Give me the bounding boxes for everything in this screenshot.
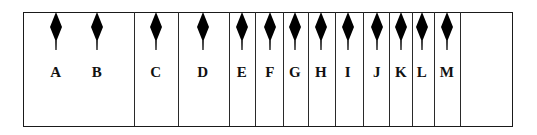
diamond-pin-icon xyxy=(288,12,302,54)
divider-line xyxy=(255,12,256,126)
diamond-pin-icon xyxy=(49,12,63,54)
marker-label: M xyxy=(435,64,459,81)
strip-diagram: ABCDEFGHIJKLM xyxy=(0,0,537,135)
marker-label: I xyxy=(336,64,360,81)
diamond-pin-icon xyxy=(314,12,328,54)
marker-label: L xyxy=(410,64,434,81)
diamond-pin-icon xyxy=(370,12,384,54)
diamond-pin-icon xyxy=(196,12,210,54)
marker-label: E xyxy=(230,64,254,81)
divider-line xyxy=(363,12,364,126)
diamond-pin-icon xyxy=(394,12,408,54)
diamond-pin-icon xyxy=(440,12,454,54)
marker-label: A xyxy=(44,64,68,81)
diamond-pin-icon xyxy=(149,12,163,54)
marker-label: C xyxy=(144,64,168,81)
diamond-pin-icon xyxy=(415,12,429,54)
marker-label: D xyxy=(191,64,215,81)
diamond-pin-icon xyxy=(263,12,277,54)
diamond-pin-icon xyxy=(235,12,249,54)
marker-label: H xyxy=(309,64,333,81)
divider-line xyxy=(178,12,179,126)
diamond-pin-icon xyxy=(90,12,104,54)
marker-label: J xyxy=(365,64,389,81)
diamond-pin-icon xyxy=(341,12,355,54)
marker-label: F xyxy=(258,64,282,81)
marker-label: B xyxy=(85,64,109,81)
divider-line xyxy=(134,12,135,126)
marker-label: G xyxy=(283,64,307,81)
divider-line xyxy=(460,12,461,126)
